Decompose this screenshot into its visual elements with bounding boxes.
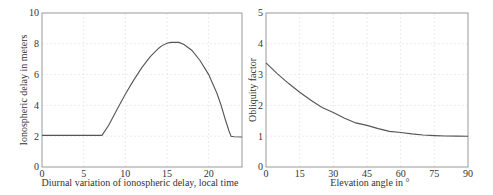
svg-text:6: 6	[34, 69, 39, 80]
svg-text:3: 3	[258, 69, 263, 80]
svg-text:10: 10	[29, 7, 39, 18]
svg-text:0: 0	[34, 161, 39, 172]
y-axis-label: Ionospheric delay in meters	[18, 34, 29, 145]
y-axis-label: Obliquity factor	[247, 57, 258, 122]
delay-curve	[42, 42, 242, 137]
y-ticks: 0 2 4 6 8 10	[29, 7, 39, 172]
svg-text:4: 4	[34, 100, 39, 111]
svg-text:5: 5	[258, 7, 263, 18]
svg-text:0: 0	[258, 161, 263, 172]
x-axis-label: Elevation angle in °	[330, 177, 409, 188]
y-ticks: 0 1 2 3 4 5	[258, 7, 263, 172]
svg-text:4: 4	[258, 38, 263, 49]
svg-text:8: 8	[34, 38, 39, 49]
svg-text:90: 90	[463, 168, 473, 179]
plot-frame	[42, 13, 242, 167]
diurnal-delay-chart: 0 2 4 6 8 10 0 5 10 15 20 Diurnal variat…	[0, 0, 250, 195]
svg-text:15: 15	[295, 168, 305, 179]
svg-text:2: 2	[258, 100, 263, 111]
x-axis-label: Diurnal variation of ionospheric delay, …	[42, 177, 239, 188]
obliquity-factor-chart: 0 1 2 3 4 5 0 15 30 45 60 75 90 Elevatio…	[245, 0, 493, 195]
svg-text:0: 0	[264, 168, 269, 179]
svg-text:75: 75	[429, 168, 439, 179]
svg-text:1: 1	[258, 131, 263, 142]
svg-text:2: 2	[34, 131, 39, 142]
grid	[42, 13, 242, 167]
